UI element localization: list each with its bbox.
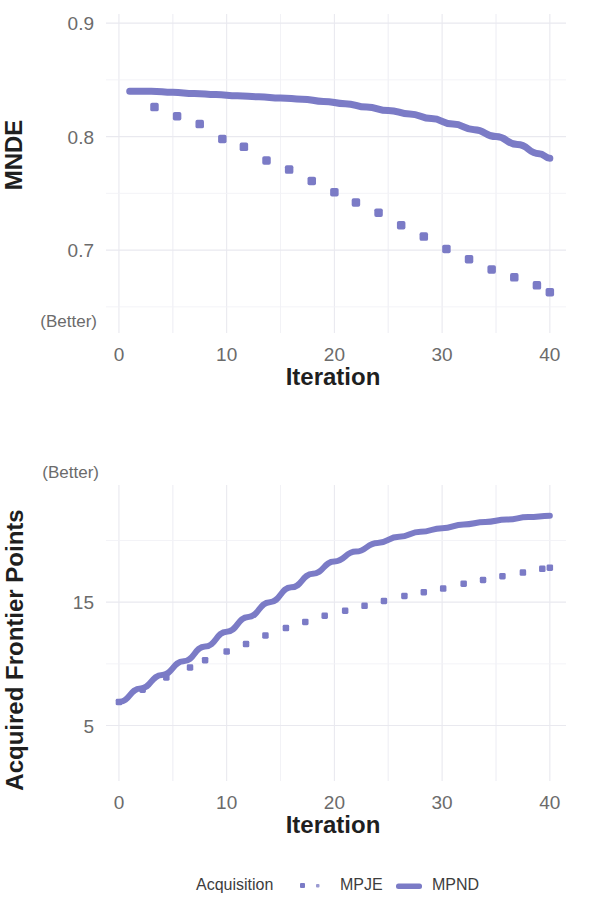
x-axis-title: Iteration <box>286 811 381 838</box>
frontier-chart-svg: 515 010203040 (Better) Acquired Frontier… <box>0 400 591 917</box>
legend-title: Acquisition <box>196 876 273 893</box>
x-tick-label: 0 <box>114 344 125 365</box>
mnde-chart-svg: 0.70.80.9 010203040 (Better) MNDE Iterat… <box>0 0 591 400</box>
x-tick-label: 10 <box>216 344 237 365</box>
y-tick-label: 15 <box>73 592 94 613</box>
legend-label-mpnd[interactable]: MPND <box>432 876 479 893</box>
x-tick-label: 20 <box>324 792 345 813</box>
y-tick-label: 0.7 <box>68 240 94 261</box>
x-tick-label: 0 <box>114 792 125 813</box>
legend-key-mpje-marker-2 <box>316 884 320 888</box>
y-axis-title: MNDE <box>0 120 27 191</box>
y-axis-title: Acquired Frontier Points <box>1 509 28 790</box>
figure-root: 0.70.80.9 010203040 (Better) MNDE Iterat… <box>0 0 591 917</box>
legend-key-mpje-marker[interactable] <box>300 883 305 888</box>
y-axis-better-annotation: (Better) <box>42 463 99 482</box>
y-tick-label: 0.9 <box>68 13 94 34</box>
x-tick-label: 40 <box>539 792 560 813</box>
x-tick-label: 30 <box>432 344 453 365</box>
y-tick-label: 0.8 <box>68 127 94 148</box>
legend-key-mpnd-marker[interactable] <box>396 884 422 890</box>
x-tick-label: 20 <box>324 344 345 365</box>
chart-panel-mnde: 0.70.80.9 010203040 (Better) MNDE Iterat… <box>0 0 591 400</box>
chart-background <box>0 0 591 400</box>
y-axis-better-annotation: (Better) <box>40 312 97 331</box>
x-tick-label: 40 <box>539 344 560 365</box>
x-axis-title: Iteration <box>286 363 381 390</box>
x-tick-label: 30 <box>432 792 453 813</box>
chart-panel-frontier: 515 010203040 (Better) Acquired Frontier… <box>0 400 591 917</box>
x-tick-label: 10 <box>216 792 237 813</box>
y-tick-label: 5 <box>83 716 94 737</box>
legend-label-mpje[interactable]: MPJE <box>340 876 383 893</box>
